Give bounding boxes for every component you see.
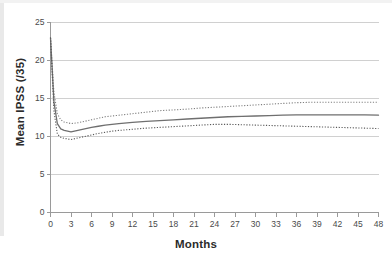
x-tick-label-27: 27	[224, 219, 246, 229]
y-tick-label-10: 10	[21, 131, 45, 141]
x-axis-title: Months	[0, 238, 392, 250]
x-tick-label-30: 30	[245, 219, 267, 229]
x-tick-label-24: 24	[204, 219, 226, 229]
series-line-2	[51, 38, 379, 140]
x-tick-label-21: 21	[183, 219, 205, 229]
x-tick-label-3: 3	[60, 219, 82, 229]
y-tick-label-0: 0	[21, 207, 45, 217]
x-tick-label-6: 6	[81, 219, 103, 229]
x-tick-label-33: 33	[265, 219, 287, 229]
x-tick-label-45: 45	[347, 219, 369, 229]
x-tick-label-9: 9	[101, 219, 123, 229]
x-tickmarks-group	[51, 213, 379, 217]
data-series-group	[51, 38, 379, 140]
y-tick-label-25: 25	[21, 17, 45, 27]
chart-figure: Mean IPSS (/35) Months 0510152025 036912…	[0, 0, 392, 262]
x-tick-label-42: 42	[327, 219, 349, 229]
x-tick-label-15: 15	[142, 219, 164, 229]
x-tick-label-12: 12	[122, 219, 144, 229]
x-tick-label-0: 0	[40, 219, 62, 229]
series-line-0	[51, 38, 379, 124]
x-tick-label-48: 48	[368, 219, 390, 229]
y-tick-label-5: 5	[21, 169, 45, 179]
x-tick-label-36: 36	[286, 219, 308, 229]
y-tickmarks-group	[47, 23, 51, 213]
y-tick-label-20: 20	[21, 55, 45, 65]
x-tick-label-39: 39	[306, 219, 328, 229]
y-tick-label-15: 15	[21, 93, 45, 103]
x-tick-label-18: 18	[163, 219, 185, 229]
